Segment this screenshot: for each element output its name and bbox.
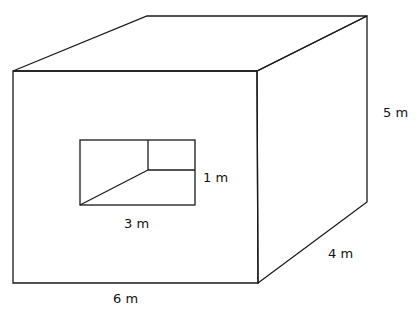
hole-opening [80,140,195,205]
right-face [257,16,367,283]
hole-height-label: 1 m [203,170,228,185]
diagram-svg: 5 m 1 m 3 m 4 m 6 m [0,0,419,312]
hole-width-label: 3 m [124,216,149,231]
top-face [13,16,367,71]
box-diagram: 5 m 1 m 3 m 4 m 6 m [0,0,419,312]
height-label: 5 m [383,105,408,120]
width-label: 6 m [113,291,138,306]
depth-label: 4 m [328,246,353,261]
hole-inner-diagonal-edge [80,170,148,205]
